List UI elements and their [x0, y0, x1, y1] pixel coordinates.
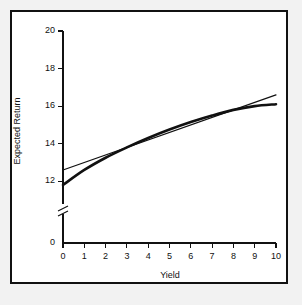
series-fitted-curve: [63, 104, 276, 185]
y-tick-label: 12: [21, 176, 55, 185]
y-tick-label: 20: [21, 26, 55, 35]
axis-ticks: [58, 31, 276, 248]
x-axis-title: Yield: [63, 270, 277, 280]
axes-spines: [63, 31, 276, 243]
x-tick-label: 10: [261, 252, 291, 261]
y-tick-label: 0: [21, 238, 55, 247]
y-tick-label: 18: [21, 64, 55, 73]
data-series-layer: [63, 95, 276, 185]
series-regression-line: [63, 95, 276, 170]
y-tick-label: 14: [21, 139, 55, 148]
figure-root: 01234567891001214161820 Expected Return …: [0, 0, 302, 305]
y-axis-title: Expected Return: [12, 81, 22, 181]
y-tick-label: 16: [21, 101, 55, 110]
